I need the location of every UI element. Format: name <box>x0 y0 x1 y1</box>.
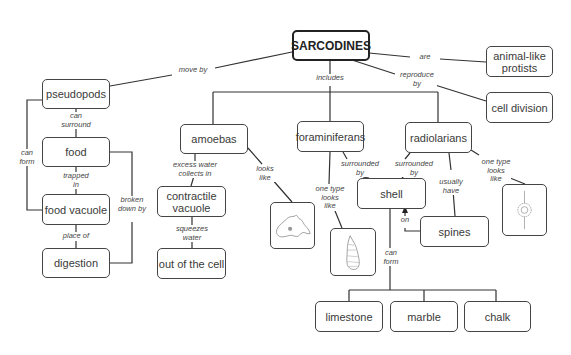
node-label: marble <box>407 311 441 323</box>
node-digestion[interactable]: digestion <box>42 248 110 278</box>
link-label-usually-have: usually have <box>436 178 466 195</box>
concept-map: SARCODINES animal-like protists cell div… <box>0 0 571 355</box>
node-radiolarians[interactable]: radiolarians <box>405 122 472 153</box>
foraminiferan-shell-icon <box>331 229 375 275</box>
amoeba-icon <box>271 203 314 248</box>
link-label-one-type-looks-like-foram: one type looks like <box>315 185 345 211</box>
link-label-can-form-shell: can form <box>381 249 401 266</box>
node-food-vacuole[interactable]: food vacuole <box>42 194 110 225</box>
link-label-can-surround: can surround <box>56 112 96 129</box>
link-label-surrounded-by-radiolarians: surrounded by <box>393 160 435 177</box>
foraminiferan-image[interactable] <box>330 228 376 276</box>
node-out-of-the-cell[interactable]: out of the cell <box>157 248 226 279</box>
node-label: food vacuole <box>45 204 107 216</box>
node-label: pseudopods <box>46 88 106 100</box>
radiolarian-icon <box>503 185 546 235</box>
node-foraminiferans[interactable]: foraminiferans <box>297 121 364 152</box>
link-label-one-type-looks-like-radiolarian: one type looks like <box>481 158 511 184</box>
radiolarian-image[interactable] <box>502 184 547 236</box>
link-label-broken-down-by: broken down by <box>118 196 146 213</box>
node-label: SARCODINES <box>291 40 371 52</box>
node-label: cell division <box>491 102 547 114</box>
node-animal-like-protists[interactable]: animal-like protists <box>486 46 553 77</box>
node-sarcodines[interactable]: SARCODINES <box>292 30 370 61</box>
link-label-are: are <box>410 53 440 62</box>
link-label-place-of: place of <box>56 232 96 241</box>
node-pseudopods[interactable]: pseudopods <box>42 79 110 109</box>
node-limestone[interactable]: limestone <box>315 301 383 332</box>
node-food[interactable]: food <box>42 137 110 167</box>
node-label: out of the cell <box>159 258 224 270</box>
link-label-excess-water-collects-in: excess water collects in <box>162 161 228 178</box>
node-shell[interactable]: shell <box>357 178 426 209</box>
node-label: digestion <box>54 257 98 269</box>
node-label: limestone <box>325 311 372 323</box>
node-label: radiolarians <box>410 132 467 144</box>
link-label-can-form: can form <box>15 149 39 166</box>
node-label: animal-like protists <box>492 50 547 74</box>
link-label-looks-like: looks like <box>254 165 276 182</box>
node-label: chalk <box>485 311 511 323</box>
node-label: contractile vacuole <box>164 190 219 214</box>
node-label: amoebas <box>191 133 236 145</box>
link-label-on: on <box>399 216 411 225</box>
link-label-reproduce-by: reproduce by <box>397 71 437 88</box>
link-label-move-by: move by <box>172 66 214 75</box>
node-marble[interactable]: marble <box>390 301 458 332</box>
node-contractile-vacuole[interactable]: contractile vacuole <box>157 186 226 217</box>
node-amoebas[interactable]: amoebas <box>180 124 248 154</box>
node-label: shell <box>380 188 403 200</box>
link-label-surrounded-by-foraminiferans: surrounded by <box>339 160 381 177</box>
amoeba-image[interactable] <box>270 202 315 249</box>
link-label-trapped-in: trapped in <box>60 172 92 189</box>
node-chalk[interactable]: chalk <box>464 301 531 332</box>
node-cell-division[interactable]: cell division <box>486 92 553 123</box>
node-label: spines <box>439 226 471 238</box>
node-label: foraminiferans <box>296 131 366 143</box>
node-spines[interactable]: spines <box>420 216 489 247</box>
link-label-squeezes-water: squeezes water <box>174 225 210 242</box>
link-label-includes: includes <box>312 74 348 83</box>
node-label: food <box>65 146 86 158</box>
